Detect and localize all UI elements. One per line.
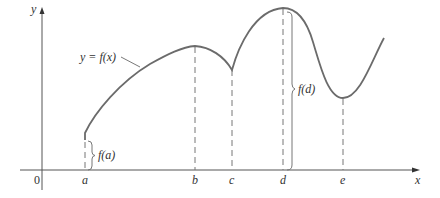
tick-d: d [280, 173, 287, 187]
origin-label: 0 [34, 173, 40, 187]
y-axis-arrow-icon [40, 7, 45, 14]
x-axis-arrow-icon [412, 168, 420, 173]
y-axis-label: y [30, 2, 37, 16]
axes: y x 0 [20, 2, 421, 190]
function-curve [85, 8, 384, 140]
curve-label-leader [121, 57, 140, 67]
brace-f-a-icon [88, 141, 95, 170]
tick-a: a [82, 173, 88, 187]
brace-f-d-label: f(d) [298, 82, 315, 96]
tick-c: c [229, 173, 235, 187]
brace-f-d-icon [287, 12, 295, 170]
tick-e: e [340, 173, 346, 187]
brace-f-a-label: f(a) [98, 148, 115, 162]
brace-f-a: f(a) [88, 141, 115, 170]
tick-b: b [192, 173, 198, 187]
x-axis-label: x [414, 173, 421, 187]
curve-label: y = f(x) [79, 50, 116, 64]
x-tick-labels: a b c d e [82, 173, 346, 187]
function-graph-diagram: y x 0 y = f(x) a b c d e f(a) f(d) [0, 0, 440, 198]
